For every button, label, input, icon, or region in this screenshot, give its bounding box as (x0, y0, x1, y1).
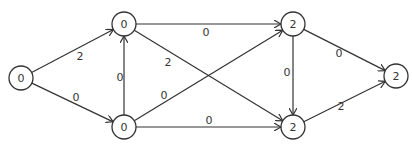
node-value-label: 2 (290, 18, 297, 31)
node-value-label: 0 (121, 18, 128, 31)
arrow-icon (304, 81, 385, 121)
arrow-icon (304, 29, 386, 70)
edge-weight-label: 2 (165, 56, 172, 69)
node-value-label: 0 (121, 121, 128, 134)
edge-weight-label: 2 (338, 100, 345, 113)
node-value-label: 2 (393, 70, 400, 83)
node-value-label: 2 (290, 121, 297, 134)
node-c: 0 (112, 115, 136, 139)
edge-weight-label: 0 (73, 91, 80, 104)
node-d: 2 (281, 12, 305, 36)
edge-weight-label: 2 (77, 50, 84, 63)
node-b: 0 (112, 12, 136, 36)
edge-d-to-f (304, 29, 386, 70)
edge-weight-label: 0 (284, 66, 291, 79)
edge-weight-label: 0 (203, 26, 210, 39)
directed-graph-diagram: 2000200002 000222 (0, 0, 412, 148)
edge-weight-label: 0 (206, 114, 213, 127)
node-a: 0 (9, 66, 33, 90)
edge-e-to-f (304, 81, 385, 121)
edge-weight-label: 0 (117, 71, 124, 84)
edge-weight-label: 0 (161, 89, 168, 102)
edges-layer (32, 24, 386, 127)
edge-a-to-b (32, 30, 114, 73)
edge-weight-label: 0 (336, 47, 343, 60)
node-value-label: 0 (18, 72, 25, 85)
node-f: 2 (384, 64, 408, 88)
node-e: 2 (281, 115, 305, 139)
arrow-icon (32, 30, 114, 73)
